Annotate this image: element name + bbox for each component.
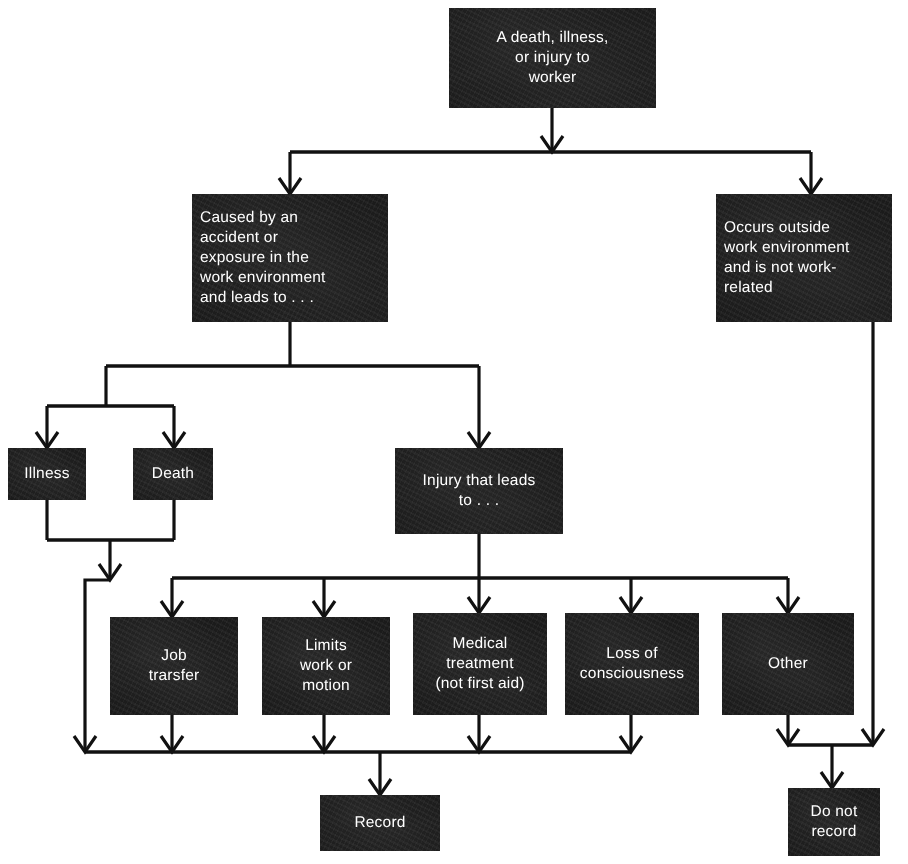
- node-do-not-record-label: Do not record: [796, 802, 872, 842]
- node-start[interactable]: A death, illness, or injury to worker: [449, 8, 656, 108]
- node-loss-of-consciousness[interactable]: Loss of consciousness: [565, 613, 699, 715]
- node-job-transfer-label: Job trarsfer: [118, 646, 230, 686]
- arrowhead-do-not-record: [821, 772, 843, 788]
- arrowhead-loss-of-consciousness-bottom: [620, 736, 642, 752]
- connector-layer: [0, 0, 908, 864]
- arrowhead-limits-work: [313, 601, 335, 617]
- arrowhead-start-to-bus: [541, 136, 563, 152]
- node-other[interactable]: Other: [722, 613, 854, 715]
- node-death-label: Death: [141, 464, 205, 484]
- node-other-label: Other: [730, 654, 846, 674]
- arrowhead-limits-work-bottom: [313, 736, 335, 752]
- node-death[interactable]: Death: [133, 448, 213, 500]
- edge-left-rail: [85, 580, 110, 750]
- node-job-transfer[interactable]: Job trarsfer: [110, 617, 238, 715]
- arrowhead-job-transfer: [161, 601, 183, 617]
- arrowhead-merge-to-left-rail: [99, 564, 121, 580]
- node-limits-work[interactable]: Limits work or motion: [262, 617, 390, 715]
- node-illness-label: Illness: [16, 464, 78, 484]
- node-illness[interactable]: Illness: [8, 448, 86, 500]
- node-injury[interactable]: Injury that leads to . . .: [395, 448, 563, 534]
- arrowhead-death: [163, 432, 185, 448]
- arrowhead-work-related: [279, 178, 301, 194]
- node-work-related-label: Caused by an accident or exposure in the…: [200, 208, 380, 307]
- node-start-label: A death, illness, or injury to worker: [457, 28, 648, 87]
- arrowhead-job-transfer-bottom: [161, 736, 183, 752]
- arrowhead-left-rail-bottom: [74, 736, 96, 752]
- node-injury-label: Injury that leads to . . .: [403, 471, 555, 511]
- arrowhead-not-work-related-bottom: [862, 729, 884, 745]
- node-medical-treatment-label: Medical treatment (not first aid): [421, 634, 539, 693]
- node-loss-of-consciousness-label: Loss of consciousness: [573, 644, 691, 684]
- arrowhead-other-bottom: [777, 729, 799, 745]
- node-limits-work-label: Limits work or motion: [270, 636, 382, 695]
- flowchart-canvas: A death, illness, or injury to worker Ca…: [0, 0, 908, 864]
- arrowhead-illness: [36, 432, 58, 448]
- node-do-not-record[interactable]: Do not record: [788, 788, 880, 856]
- arrowhead-medical-treatment-bottom: [468, 736, 490, 752]
- arrowhead-record: [369, 779, 391, 795]
- node-not-work-related-label: Occurs outside work environment and is n…: [724, 218, 884, 297]
- node-record[interactable]: Record: [320, 795, 440, 851]
- node-work-related[interactable]: Caused by an accident or exposure in the…: [192, 194, 388, 322]
- node-medical-treatment[interactable]: Medical treatment (not first aid): [413, 613, 547, 715]
- node-record-label: Record: [328, 813, 432, 833]
- arrowhead-injury: [468, 432, 490, 448]
- arrowhead-not-work-related: [800, 178, 822, 194]
- arrowhead-medical-treatment: [468, 597, 490, 613]
- arrowhead-other: [777, 597, 799, 613]
- arrowhead-loss-of-consciousness: [620, 597, 642, 613]
- node-not-work-related[interactable]: Occurs outside work environment and is n…: [716, 194, 892, 322]
